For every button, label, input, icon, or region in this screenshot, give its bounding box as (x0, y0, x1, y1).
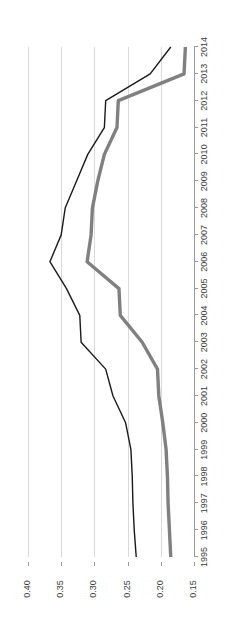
category-tick-2012 (194, 100, 198, 101)
category-tick-2006 (194, 261, 198, 262)
value-tick-0.25 (128, 562, 129, 566)
category-tick-2013 (194, 73, 198, 74)
value-label-0.20: 0.20 (155, 569, 165, 609)
value-label-0.30: 0.30 (88, 569, 98, 609)
category-tick-1999 (194, 449, 198, 450)
chart-plot-area: 1995199619971998199920002001200220032004… (0, 0, 241, 619)
category-tick-2002 (194, 368, 198, 369)
category-tick-2014 (194, 46, 198, 47)
chart-figure: 1995199619971998199920002001200220032004… (0, 0, 241, 619)
value-label-0.25: 0.25 (122, 569, 132, 609)
category-tick-2009 (194, 180, 198, 181)
category-tick-2008 (194, 207, 198, 208)
category-tick-2005 (194, 288, 198, 289)
category-tick-2004 (194, 314, 198, 315)
value-label-0.15: 0.15 (188, 569, 198, 609)
category-tick-2000 (194, 422, 198, 423)
chart-category-axis-line (194, 46, 195, 557)
chart-drawing-surface (28, 47, 194, 557)
category-tick-2003 (194, 341, 198, 342)
category-tick-2001 (194, 395, 198, 396)
value-tick-0.35 (61, 562, 62, 566)
value-label-0.35: 0.35 (55, 569, 65, 609)
category-tick-2010 (194, 153, 198, 154)
category-tick-2011 (194, 127, 198, 128)
category-tick-1996 (194, 529, 198, 530)
chart-series-layer (28, 47, 194, 557)
value-tick-0.20 (161, 562, 162, 566)
value-tick-0.15 (194, 562, 195, 566)
category-tick-1995 (194, 556, 198, 557)
value-tick-0.30 (94, 562, 95, 566)
series-black (50, 47, 171, 557)
category-tick-2007 (194, 234, 198, 235)
category-label-2014: 2014 (199, 27, 209, 67)
category-tick-1997 (194, 502, 198, 503)
series-gray (87, 47, 185, 557)
value-tick-0.40 (28, 562, 29, 566)
category-tick-1998 (194, 475, 198, 476)
value-label-0.40: 0.40 (22, 569, 32, 609)
chart-rotation-container: 1995199619971998199920002001200220032004… (0, 0, 241, 619)
